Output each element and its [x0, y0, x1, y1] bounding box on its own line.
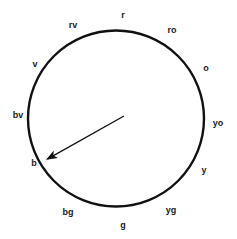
hue-label-bv: bv — [13, 111, 24, 120]
hue-label-v: v — [32, 60, 37, 69]
hue-label-r: r — [121, 11, 125, 20]
color-wheel-diagram: r ro o yo y yg g bg b bv v rv — [0, 0, 237, 239]
hue-label-yg: yg — [166, 206, 177, 215]
hue-label-b: b — [31, 159, 37, 168]
pointer-arrow — [47, 116, 124, 159]
hue-circle — [28, 31, 204, 207]
hue-label-g: g — [120, 221, 126, 230]
hue-label-o: o — [203, 64, 209, 73]
hue-label-yo: yo — [213, 119, 224, 128]
wheel-canvas — [0, 0, 237, 239]
hue-label-ro: ro — [168, 26, 177, 35]
hue-label-bg: bg — [63, 208, 74, 217]
hue-label-y: y — [201, 166, 206, 175]
hue-label-rv: rv — [69, 21, 78, 30]
